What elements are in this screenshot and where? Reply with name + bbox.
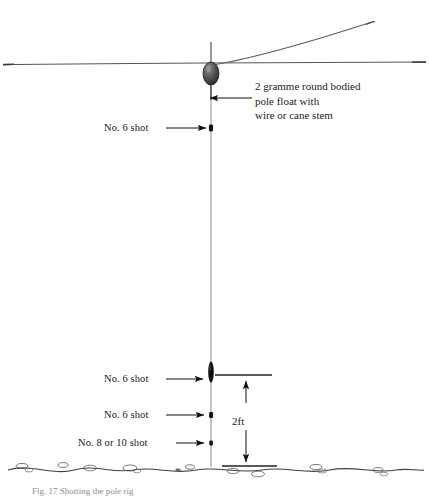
shot-olivette: [208, 362, 214, 383]
shot-label-lower-1: No. 6 shot: [104, 372, 148, 385]
depth-dimension-label: 2ft: [232, 415, 244, 427]
pole-line: [206, 21, 375, 66]
shot-bottom: [209, 441, 213, 446]
shot-mid: [209, 412, 213, 418]
depth-dimension: [215, 375, 277, 466]
shot-label-lower-2: No. 6 shot: [104, 408, 148, 421]
shot-upper: [209, 125, 213, 132]
float-callout-line-1: 2 gramme round bodied: [255, 79, 360, 94]
float-callout-line-3: wire or cane stem: [255, 108, 360, 123]
pole-float-body: [203, 62, 219, 85]
river-bed: [8, 463, 424, 477]
figure-caption: Fig. 17 Shotting the pole rig: [32, 486, 134, 496]
shot-label-upper: No. 6 shot: [104, 121, 148, 134]
float-callout-line-2: pole float with: [255, 94, 360, 109]
float-callout: 2 gramme round bodied pole float with wi…: [255, 79, 360, 123]
shot-label-lower-3: No. 8 or 10 shot: [78, 436, 148, 449]
